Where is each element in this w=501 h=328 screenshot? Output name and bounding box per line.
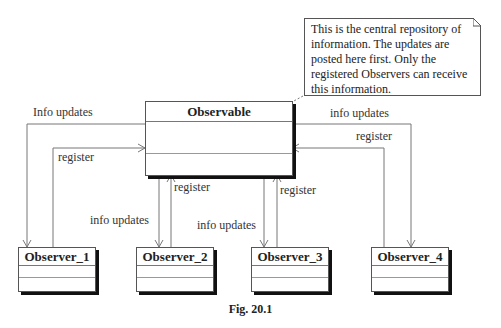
label-register: register <box>280 183 316 197</box>
folded-corner-icon <box>473 18 482 27</box>
note-box: This is the central repository of inform… <box>304 18 481 96</box>
label-info-updates: Info updates <box>33 105 93 119</box>
observer-class[interactable]: Observer_3 <box>251 247 329 292</box>
figure-caption: Fig. 20.1 <box>0 302 501 317</box>
label-register: register <box>174 180 210 194</box>
attributes-section <box>146 122 292 154</box>
observable-class[interactable]: Observable <box>145 101 293 176</box>
attributes-section <box>372 266 448 278</box>
attributes-section <box>137 266 213 278</box>
label-info-updates: info updates <box>197 218 256 232</box>
class-name: Observer_4 <box>372 248 448 266</box>
observer-class[interactable]: Observer_1 <box>18 247 96 292</box>
register-line-observer-4 <box>292 148 384 247</box>
class-name: Observable <box>146 102 292 122</box>
info-line-observer-1 <box>27 124 145 247</box>
observer-class[interactable]: Observer_2 <box>136 247 214 292</box>
class-name: Observer_1 <box>19 248 95 266</box>
note-anchor-line <box>292 96 303 102</box>
observer-class[interactable]: Observer_4 <box>371 247 449 292</box>
label-info-updates: info updates <box>330 106 389 120</box>
label-register: register <box>58 150 94 164</box>
attributes-section <box>252 266 328 278</box>
class-name: Observer_2 <box>137 248 213 266</box>
label-info-updates: info updates <box>90 213 149 227</box>
note-text: This is the central repository of inform… <box>311 22 467 96</box>
attributes-section <box>19 266 95 278</box>
label-register: register <box>356 129 392 143</box>
class-name: Observer_3 <box>252 248 328 266</box>
